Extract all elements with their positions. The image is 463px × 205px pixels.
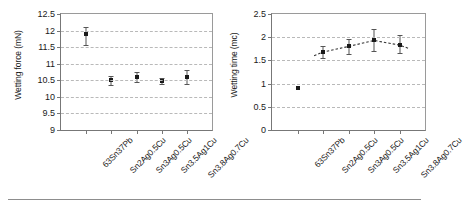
data-point-marker <box>84 32 88 36</box>
y-axis-tick-label: 0 <box>261 126 266 135</box>
y-axis-tick-label: 0.5 <box>253 102 266 111</box>
x-axis-labels-right: 63Sn37PbSn2Ag0.5CuSn3Ag0.5CuSn3.5Ag1CuSn… <box>216 135 431 205</box>
error-bar-cap <box>109 76 114 77</box>
gridline <box>61 113 212 114</box>
y-axis-tick-label: 2.5 <box>253 10 266 19</box>
y-axis-tick-label: 11 <box>46 59 55 68</box>
error-bar-cap <box>84 27 89 28</box>
data-point-marker <box>398 43 402 47</box>
y-axis-tick <box>268 84 272 85</box>
error-bar-cap <box>109 85 114 86</box>
x-axis-tick <box>137 130 138 134</box>
x-axis-tick <box>111 130 112 134</box>
gridline <box>61 47 212 48</box>
gridline <box>61 97 212 98</box>
error-bar-cap <box>321 46 326 47</box>
gridline <box>272 84 425 85</box>
x-axis-tick <box>187 130 188 134</box>
gridline <box>272 107 425 108</box>
error-bar-cap <box>184 84 189 85</box>
y-axis-tick <box>57 64 61 65</box>
error-bar-cap <box>159 84 164 85</box>
x-axis-tick <box>86 130 87 134</box>
y-axis-tick-label: 1.5 <box>253 56 266 65</box>
error-bar-cap <box>134 82 139 83</box>
y-axis-tick <box>57 113 61 114</box>
gridline <box>272 37 425 38</box>
error-bar-cap <box>372 29 377 30</box>
y-axis-tick <box>268 14 272 15</box>
data-point-marker <box>185 75 189 79</box>
y-axis-tick-label: 12.5 <box>37 10 55 19</box>
y-axis-tick-label: 11.5 <box>38 43 55 52</box>
y-axis-title-right: Wetting time (mc) <box>229 5 239 125</box>
x-axis-category-label: 63Sn37Pb <box>312 135 346 169</box>
data-point-marker <box>321 50 325 54</box>
error-bar-cap <box>346 54 351 55</box>
x-axis-labels-left: 63Sn37PbSn2Ag0.5CuSn3Ag0.5CuSn3.5Ag1CuSn… <box>0 135 215 205</box>
error-bar-cap <box>134 72 139 73</box>
gridline <box>61 64 212 65</box>
data-point-marker <box>372 38 376 42</box>
y-axis-tick <box>57 130 61 131</box>
y-axis-tick <box>268 60 272 61</box>
plot-area-left: 99.51010.51111.51212.5 <box>60 13 213 131</box>
error-bar-cap <box>346 39 351 40</box>
error-bar-cap <box>372 51 377 52</box>
footer-rule <box>8 199 421 200</box>
y-axis-tick <box>57 80 61 81</box>
x-axis-tick <box>374 130 375 134</box>
x-axis-tick <box>400 130 401 134</box>
error-bar-cap <box>397 35 402 36</box>
y-axis-tick-label: 2 <box>261 33 266 42</box>
y-axis-tick-label: 12 <box>45 26 55 35</box>
error-bar-cap <box>321 58 326 59</box>
y-axis-tick <box>268 130 272 131</box>
y-axis-tick <box>57 31 61 32</box>
y-axis-tick-label: 1 <box>261 79 266 88</box>
y-axis-tick-label: 9 <box>50 126 55 135</box>
y-axis-tick <box>268 37 272 38</box>
data-point-marker <box>296 86 300 90</box>
y-axis-tick-label: 10.5 <box>37 76 55 85</box>
x-axis-tick <box>323 130 324 134</box>
y-axis-tick <box>57 97 61 98</box>
y-axis-tick <box>57 14 61 15</box>
error-bar-cap <box>184 70 189 71</box>
error-bar-cap <box>397 53 402 54</box>
x-axis-tick <box>349 130 350 134</box>
gridline <box>272 60 425 61</box>
gridline <box>61 31 212 32</box>
y-axis-tick <box>57 47 61 48</box>
data-series-right <box>272 14 425 130</box>
x-axis-tick <box>298 130 299 134</box>
chart-panel-wetting-force: Wetting force (mN) 99.51010.51111.51212.… <box>0 0 215 204</box>
data-point-marker <box>135 75 139 79</box>
chart-panel-wetting-time: Wetting time (mc) 00.511.522.5 63Sn37PbS… <box>216 0 431 204</box>
x-axis-tick <box>162 130 163 134</box>
y-axis-tick-label: 9.5 <box>42 109 55 118</box>
y-axis-tick <box>268 107 272 108</box>
y-axis-tick-label: 10 <box>45 92 55 101</box>
data-point-marker <box>347 44 351 48</box>
y-axis-title-left: Wetting force (mN) <box>13 5 23 125</box>
gridline <box>61 80 212 81</box>
plot-area-right: 00.511.522.5 <box>271 13 426 131</box>
